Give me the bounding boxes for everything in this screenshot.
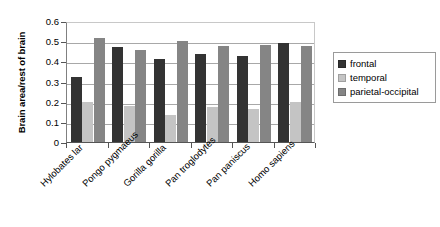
legend: frontaltemporalparietal-occipital — [333, 52, 436, 103]
bar-frontal — [237, 56, 248, 142]
bar-parietal-occipital — [301, 46, 312, 142]
bar-parietal-occipital — [260, 45, 271, 142]
bar-parietal-occipital — [94, 38, 105, 142]
bar-parietal-occipital — [177, 41, 188, 142]
x-tick-mark — [191, 143, 192, 148]
bar-frontal — [112, 47, 123, 142]
bar-group — [233, 23, 275, 142]
legend-swatch-icon — [338, 60, 346, 68]
y-tick-label: 0.1 — [19, 118, 59, 128]
y-tick-label: 0 — [19, 138, 59, 148]
y-tick-label: 0.3 — [19, 78, 59, 88]
legend-label: temporal — [350, 73, 387, 83]
bar-frontal — [278, 43, 289, 142]
bar-group — [109, 23, 151, 142]
y-tick-label: 0.5 — [19, 37, 59, 47]
bar-frontal — [195, 54, 206, 142]
legend-item: frontal — [338, 57, 431, 70]
bar-temporal — [248, 109, 259, 142]
y-tick-label: 0.4 — [19, 57, 59, 67]
x-category-label: Hylobates lar — [38, 142, 85, 189]
legend-item: temporal — [338, 71, 431, 84]
legend-label: parietal-occipital — [350, 87, 419, 97]
bar-group — [150, 23, 192, 142]
plot-area — [66, 22, 315, 143]
bar-group — [192, 23, 234, 142]
bar-frontal — [154, 59, 165, 142]
bar-group — [275, 23, 317, 142]
x-category-label: Homo sapiens — [246, 138, 297, 189]
x-category-label: Gorilla gorilla — [121, 142, 168, 189]
bar-parietal-occipital — [218, 46, 229, 142]
y-tick-label: 0.2 — [19, 98, 59, 108]
bar-frontal — [71, 77, 82, 142]
bar-chart: Brain area/rest of brain 0.60.50.40.30.2… — [0, 0, 440, 227]
x-tick-mark — [149, 143, 150, 148]
x-tick-mark — [274, 143, 275, 148]
legend-item: parietal-occipital — [338, 85, 431, 98]
bar-group — [67, 23, 109, 142]
bar-temporal — [82, 102, 93, 142]
x-tick-mark — [66, 143, 67, 148]
legend-swatch-icon — [338, 88, 346, 96]
y-tick-label: 0.6 — [19, 17, 59, 27]
legend-swatch-icon — [338, 74, 346, 82]
bar-temporal — [290, 102, 301, 142]
bar-temporal — [165, 115, 176, 142]
x-tick-mark — [315, 143, 316, 148]
legend-label: frontal — [350, 59, 376, 69]
bar-parietal-occipital — [135, 50, 146, 142]
x-tick-mark — [108, 143, 109, 148]
x-tick-mark — [232, 143, 233, 148]
